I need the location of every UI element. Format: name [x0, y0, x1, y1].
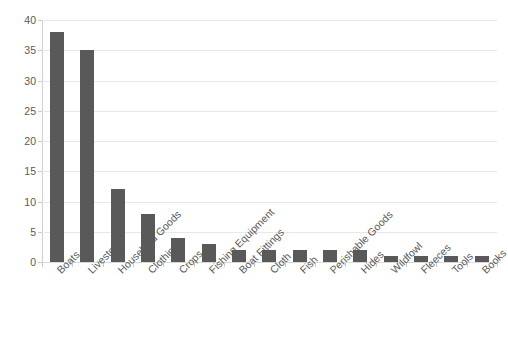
value-axis-tick-mark	[38, 141, 42, 142]
category-axis-tick-mark	[376, 263, 377, 267]
value-axis-tick-label: 25	[2, 106, 36, 117]
category-axis-tick-mark	[42, 263, 43, 267]
category-axis-tick-mark	[315, 263, 316, 267]
value-axis-tick-label: 0	[2, 257, 36, 268]
bar-slot	[72, 20, 102, 262]
category-axis-tick-mark	[345, 263, 346, 267]
category-axis-tick-mark	[103, 263, 104, 267]
bar-slot	[315, 20, 345, 262]
bar-slot	[285, 20, 315, 262]
category-axis-tick-mark	[194, 263, 195, 267]
category-axis-tick-mark	[497, 263, 498, 267]
value-axis-tick-labels: 0510152025303540	[0, 0, 36, 346]
value-axis-tick-label: 35	[2, 45, 36, 56]
bars-layer	[42, 20, 497, 262]
bar	[80, 50, 94, 262]
bar-slot	[103, 20, 133, 262]
value-axis-tick-label: 40	[2, 15, 36, 26]
category-axis-tick-mark	[72, 263, 73, 267]
category-axis-tick-labels: BoatsLivestockHousehold GoodsClothingCro…	[42, 268, 497, 346]
value-axis-tick-mark	[38, 81, 42, 82]
bar-slot	[467, 20, 497, 262]
category-axis-tick-mark	[133, 263, 134, 267]
category-axis-tick-mark	[254, 263, 255, 267]
category-axis-tick-mark	[285, 263, 286, 267]
value-axis-tick-label: 30	[2, 75, 36, 86]
category-axis-tick-mark	[224, 263, 225, 267]
bar-slot	[406, 20, 436, 262]
value-axis-tick-mark	[38, 171, 42, 172]
bar-slot	[194, 20, 224, 262]
value-axis-tick-mark	[38, 20, 42, 21]
value-axis-tick-mark	[38, 50, 42, 51]
category-axis-tick-mark	[406, 263, 407, 267]
category-axis-tick-mark	[163, 263, 164, 267]
value-axis-tick-mark	[38, 111, 42, 112]
value-axis-tick-label: 20	[2, 136, 36, 147]
bar-slot	[42, 20, 72, 262]
bar	[50, 32, 64, 262]
value-axis-tick-mark	[38, 232, 42, 233]
value-axis-tick-label: 15	[2, 166, 36, 177]
value-axis-tick-label: 5	[2, 227, 36, 238]
bar-slot	[436, 20, 466, 262]
value-axis-tick-mark	[38, 202, 42, 203]
category-axis-tick-mark	[467, 263, 468, 267]
value-axis-tick-label: 10	[2, 196, 36, 207]
category-axis-tick-mark	[436, 263, 437, 267]
